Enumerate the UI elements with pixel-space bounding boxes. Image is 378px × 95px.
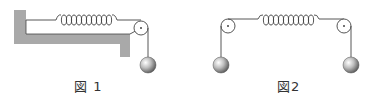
diagram-canvas [0,0,378,95]
spring-hook-left [56,15,61,20]
pulley-axle [140,27,142,29]
left-pulley-axle [227,25,229,27]
spring-icon [263,15,313,25]
figure-2-caption: 図2 [277,76,300,95]
figure-1 [14,10,156,73]
spring-hook-right [112,15,117,20]
right-pulley-axle [343,25,345,27]
spring-icon [61,15,111,25]
ball-icon [140,57,156,73]
left-ball-icon [213,57,229,73]
figure-1-caption: 図 1 [74,76,102,95]
table-edge [26,20,130,34]
right-ball-icon [343,57,359,73]
figure-2 [213,15,359,73]
spring-hook-right [314,15,319,19]
spring-hook-left [258,15,263,19]
